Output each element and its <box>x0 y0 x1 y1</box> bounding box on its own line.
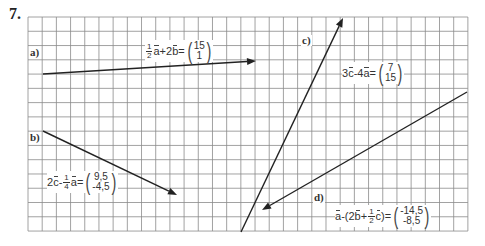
label-part-c: c) <box>301 35 312 46</box>
vector-symbol-c: c <box>53 177 59 188</box>
left-paren: ( <box>379 62 384 84</box>
vector-a-line <box>43 62 247 74</box>
fraction-half: 1 2 <box>146 43 152 60</box>
expression-a: 1 2 a +2 b = ( 15 1 ) <box>145 40 213 62</box>
label-part-a: a) <box>29 47 40 58</box>
arrowhead-icon <box>262 202 272 210</box>
right-paren: ) <box>425 205 430 227</box>
right-paren: ) <box>206 40 211 62</box>
arrowhead-icon <box>167 188 177 195</box>
vector-symbol-a: a <box>335 211 341 222</box>
expression-c: 3 c -4 a = ( 7 15 ) <box>342 62 404 84</box>
expression-d: a -(2 b + 1 2 c )= ( -14,5 -8,5 ) <box>335 205 431 227</box>
vector-symbol-c: c <box>348 68 354 79</box>
vector-symbol-a: a <box>71 177 77 188</box>
left-paren: ( <box>86 171 91 193</box>
fraction-half: 1 2 <box>368 208 374 225</box>
left-paren: ( <box>394 205 399 227</box>
label-part-d: d) <box>313 192 325 203</box>
right-paren: ) <box>398 62 403 84</box>
result-column-vector-b: ( 9,5 -4,5 ) <box>84 171 117 193</box>
expression-b: 2 c - 1 4 a = ( 9,5 -4,5 ) <box>47 171 118 193</box>
vector-symbol-a: a <box>153 46 159 57</box>
task-number: 7. <box>9 5 21 23</box>
label-part-b: b) <box>29 132 41 143</box>
vector-symbol-b: b <box>172 46 178 57</box>
left-paren: ( <box>187 40 192 62</box>
grid-lines <box>28 17 468 231</box>
arrowhead-icon <box>336 18 343 28</box>
right-paren: ) <box>111 171 116 193</box>
vector-symbol-a: a <box>363 68 369 79</box>
result-column-vector-d: ( -14,5 -8,5 ) <box>392 205 431 227</box>
arrowhead-icon <box>247 58 256 65</box>
vector-symbol-b: b <box>355 211 361 222</box>
fraction-quarter: 1 4 <box>63 174 69 191</box>
result-column-vector-c: ( 7 15 ) <box>377 62 404 84</box>
result-column-vector-a: ( 15 1 ) <box>186 40 213 62</box>
vector-symbol-c: c <box>376 211 382 222</box>
